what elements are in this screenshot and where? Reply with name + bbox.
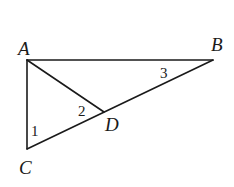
point-label-a: A [16, 38, 30, 59]
angle-label-3: 3 [160, 65, 168, 81]
angle-label-1: 1 [31, 123, 39, 139]
triangle-diagram: A B C D 1 2 3 [0, 0, 234, 187]
point-label-d: D [104, 114, 119, 135]
segment-ad [27, 60, 104, 112]
point-label-c: C [19, 157, 32, 178]
segment-cb [27, 60, 213, 149]
angle-label-2: 2 [78, 103, 86, 119]
point-labels: A B C D [16, 34, 223, 178]
point-label-b: B [211, 34, 223, 55]
segments [27, 60, 213, 149]
